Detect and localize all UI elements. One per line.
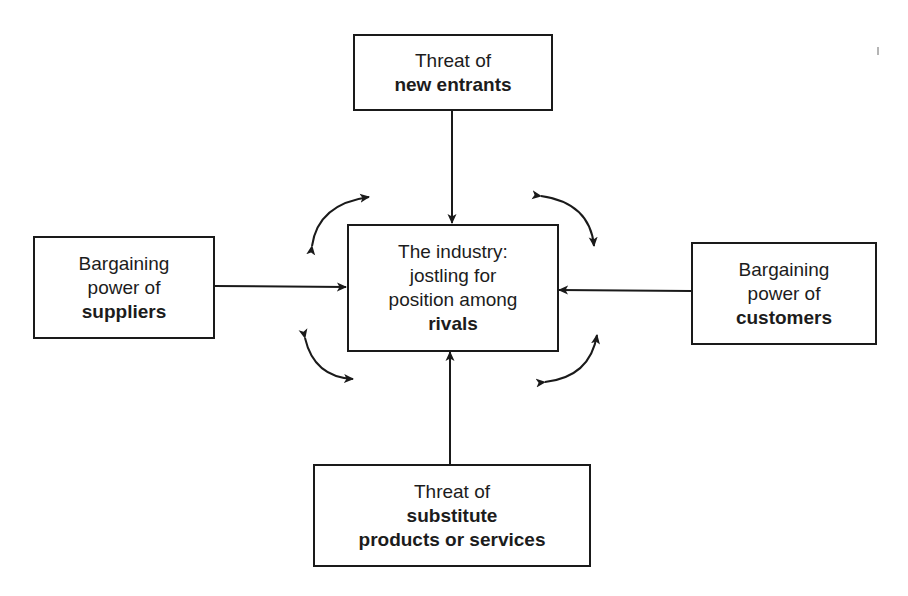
- node-text: jostling for: [410, 264, 497, 288]
- arrow-customers-to-industry: [559, 290, 691, 291]
- node-text: power of: [748, 282, 821, 306]
- rivalry-arrow-bottom-left: [305, 338, 353, 379]
- node-text: position among: [389, 288, 518, 312]
- node-text: Threat of: [414, 480, 490, 504]
- node-text-emphasis: rivals: [428, 312, 478, 336]
- node-customers: Bargaining power of customers: [691, 242, 877, 345]
- node-text-emphasis: suppliers: [82, 300, 166, 324]
- arrow-suppliers-to-industry: [214, 286, 346, 287]
- node-text-emphasis: new entrants: [394, 73, 511, 97]
- node-industry-rivals: The industry: jostling for position amon…: [347, 224, 559, 352]
- node-text: power of: [88, 276, 161, 300]
- node-text: The industry:: [398, 240, 508, 264]
- scan-artifact: [877, 47, 879, 55]
- node-text: Threat of: [415, 49, 491, 73]
- node-substitutes: Threat of substitute products or service…: [313, 464, 591, 567]
- node-text-emphasis: substitute: [407, 504, 498, 528]
- node-new-entrants: Threat of new entrants: [353, 34, 553, 111]
- node-text: Bargaining: [739, 258, 830, 282]
- node-text-emphasis: customers: [736, 306, 832, 330]
- node-suppliers: Bargaining power of suppliers: [33, 236, 215, 339]
- node-text: Bargaining: [79, 252, 170, 276]
- node-text-emphasis: products or services: [359, 528, 546, 552]
